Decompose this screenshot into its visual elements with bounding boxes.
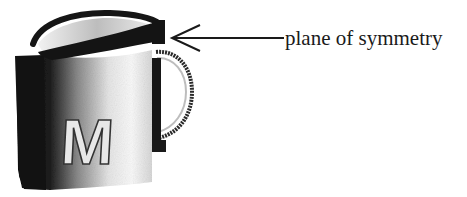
symmetry-plane-edge-lower	[152, 58, 161, 150]
mug-symmetry-figure: M plane of symmetry	[0, 0, 467, 197]
symmetry-plane-foot	[152, 140, 166, 152]
plane-of-symmetry-label: plane of symmetry	[285, 26, 443, 50]
mug: M	[15, 13, 192, 190]
mug-shadow-edge	[15, 55, 46, 190]
mug-handle-inner	[157, 58, 186, 132]
symmetry-arrow	[172, 25, 284, 51]
symmetry-plane-edge	[152, 20, 165, 44]
mug-letter: M	[59, 106, 116, 178]
